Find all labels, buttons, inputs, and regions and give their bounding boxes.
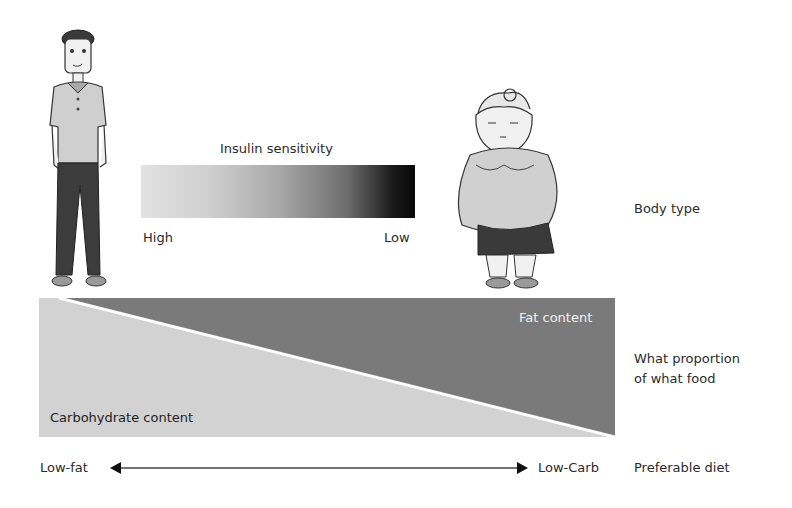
row-label-food-proportion: What proportion of what food [634,349,740,389]
insulin-sensitivity-gradient-bar [141,165,415,218]
insulin-sensitivity-low-label: Low [384,230,410,245]
row-label-body-type: Body type [634,201,700,216]
carbohydrate-content-label: Carbohydrate content [50,410,193,425]
diet-low-carb-label: Low-Carb [538,460,599,475]
diet-low-fat-label: Low-fat [40,460,88,475]
double-arrow-icon [108,460,530,476]
obese-person-illustration [448,85,568,291]
row-label-preferable-diet: Preferable diet [634,460,730,475]
row-label-food-proportion-line1: What proportion [634,349,740,369]
fat-content-label: Fat content [519,310,592,325]
lean-person-illustration [40,25,120,293]
row-label-food-proportion-line2: of what food [634,369,740,389]
insulin-sensitivity-high-label: High [143,230,173,245]
insulin-sensitivity-title: Insulin sensitivity [220,141,333,156]
